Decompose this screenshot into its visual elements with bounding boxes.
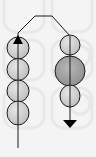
bead-diagram <box>0 0 96 157</box>
left-string <box>7 33 29 148</box>
